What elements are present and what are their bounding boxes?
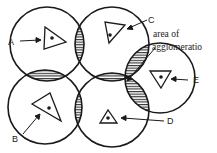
- center-dot-e: [159, 75, 163, 79]
- center-dot-b: [47, 106, 51, 110]
- center-dot-a: [50, 36, 54, 40]
- label-c: C: [148, 15, 155, 25]
- market-circle-c: [75, 7, 149, 81]
- annotation-line-1: area of: [153, 29, 180, 39]
- label-b: B: [12, 134, 18, 144]
- center-dot-d: [106, 116, 110, 120]
- label-a: A: [8, 37, 14, 47]
- triangle-icon-c: [105, 22, 125, 43]
- label-d: D: [167, 116, 174, 126]
- triangle-icon-a: [44, 27, 66, 49]
- triangle-icon-e: [150, 71, 171, 88]
- annotation-line-2: agglomeratio: [152, 42, 202, 52]
- agglomeration-diagram: A C B D E area of agglomeratio: [0, 0, 217, 153]
- center-dot-c: [108, 33, 112, 37]
- label-e: E: [193, 75, 199, 85]
- arrow-d: [123, 118, 164, 121]
- market-circle-d: [75, 73, 149, 147]
